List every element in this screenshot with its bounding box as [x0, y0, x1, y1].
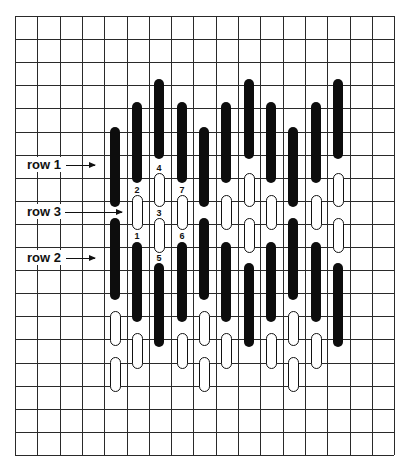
step-number-4: 4: [155, 163, 162, 173]
open-stitch: [311, 333, 322, 369]
filled-stitch: [199, 127, 209, 207]
grid-line-vertical: [193, 16, 194, 455]
open-stitch: [199, 311, 210, 346]
step-number-5: 5: [155, 253, 162, 263]
step-number-3: 3: [155, 208, 162, 218]
row-2-arrow-icon: [66, 258, 95, 259]
grid-line-vertical: [305, 16, 306, 455]
grid-line-vertical: [15, 16, 16, 455]
open-stitch: [199, 357, 210, 392]
filled-stitch: [266, 242, 276, 322]
open-stitch: [132, 195, 143, 230]
open-stitch: [244, 173, 255, 207]
filled-stitch: [333, 263, 343, 347]
filled-stitch: [266, 102, 276, 183]
filled-stitch: [244, 79, 254, 159]
grid-line-vertical: [149, 16, 150, 455]
open-stitch: [132, 333, 143, 369]
open-stitch: [266, 333, 277, 369]
grid-line-vertical: [283, 16, 284, 455]
grid-line-horizontal: [15, 39, 394, 40]
grid-line-horizontal: [15, 455, 394, 456]
filled-stitch: [311, 102, 321, 183]
row-1-arrow-icon: [66, 165, 95, 166]
step-number-7: 7: [178, 185, 185, 195]
grid-line-vertical: [104, 16, 105, 455]
open-stitch: [244, 218, 255, 253]
open-stitch: [288, 311, 299, 346]
open-stitch: [177, 333, 188, 369]
row-1-label: row 1: [24, 157, 64, 172]
filled-stitch: [154, 263, 164, 347]
filled-stitch: [132, 242, 142, 322]
open-stitch: [311, 195, 322, 230]
open-stitch: [110, 311, 121, 346]
step-number-6: 6: [178, 231, 185, 241]
grid-line-horizontal: [15, 62, 394, 63]
filled-stitch: [244, 263, 254, 347]
row-3-arrow-icon: [65, 212, 122, 213]
grid-line-horizontal: [15, 432, 394, 433]
grid-line-vertical: [171, 16, 172, 455]
grid-line-vertical: [327, 16, 328, 455]
grid-line-vertical: [60, 16, 61, 455]
filled-stitch: [288, 218, 298, 300]
grid-line-vertical: [372, 16, 373, 455]
grid-line-horizontal: [15, 16, 394, 17]
open-stitch: [154, 218, 165, 253]
filled-stitch: [110, 218, 120, 300]
step-number-2: 2: [133, 185, 140, 195]
filled-stitch: [154, 79, 164, 159]
filled-stitch: [288, 127, 298, 207]
filled-stitch: [177, 242, 187, 322]
row-3-label: row 3: [24, 204, 64, 219]
open-stitch: [333, 218, 344, 253]
row-2-label: row 2: [24, 250, 64, 265]
filled-stitch: [132, 102, 142, 183]
grid-line-vertical: [37, 16, 38, 455]
stitch-diagram: row 1 row 3 row 2 1 2 3 4 5 6 7: [0, 0, 405, 468]
grid-line-vertical: [238, 16, 239, 455]
open-stitch: [221, 195, 232, 230]
grid-line-vertical: [350, 16, 351, 455]
open-stitch: [266, 195, 277, 230]
grid-line-vertical: [82, 16, 83, 455]
filled-stitch: [333, 79, 343, 159]
open-stitch: [154, 173, 165, 207]
open-stitch: [177, 195, 188, 230]
grid-line-vertical: [127, 16, 128, 455]
open-stitch: [221, 333, 232, 369]
grid-line-horizontal: [15, 409, 394, 410]
filled-stitch: [221, 102, 231, 183]
grid-line-vertical: [394, 16, 395, 455]
step-number-1: 1: [133, 231, 140, 241]
grid-line-vertical: [216, 16, 217, 455]
filled-stitch: [110, 127, 120, 207]
filled-stitch: [199, 218, 209, 300]
filled-stitch: [221, 242, 231, 322]
open-stitch: [288, 357, 299, 392]
grid-line-vertical: [260, 16, 261, 455]
filled-stitch: [311, 242, 321, 322]
open-stitch: [110, 357, 121, 392]
open-stitch: [333, 173, 344, 207]
filled-stitch: [177, 102, 187, 183]
